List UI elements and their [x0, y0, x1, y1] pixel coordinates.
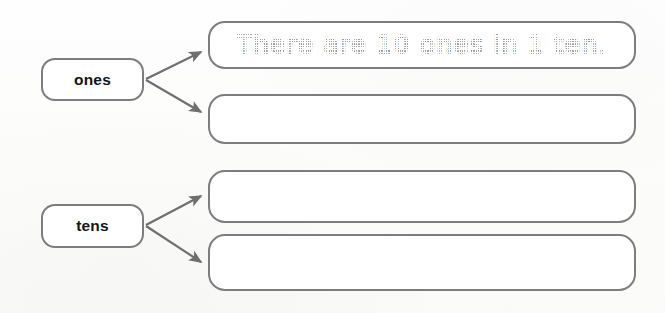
answer-box-tens-2[interactable] [208, 234, 636, 291]
label-pill-ones-text: ones [74, 72, 111, 88]
arrow-ones-to-answer-2 [146, 80, 201, 112]
arrow-tens-to-answer-3 [146, 196, 201, 225]
answer-box-tens-2-text [210, 236, 634, 289]
label-pill-tens[interactable]: tens [41, 204, 144, 248]
label-pill-tens-text: tens [76, 218, 109, 234]
answer-box-ones-1[interactable]: There are 10 ones in 1 ten. [208, 21, 636, 69]
arrow-ones-to-answer-1 [146, 52, 201, 79]
answer-box-ones-2-text [210, 96, 634, 142]
answer-box-ones-1-text: There are 10 ones in 1 ten. [236, 32, 607, 57]
arrow-tens-to-answer-4 [146, 226, 201, 262]
answer-box-tens-1-text [210, 172, 634, 221]
worksheet-canvas: ones tens There are 10 ones in 1 ten. [0, 0, 665, 313]
answer-box-tens-1[interactable] [208, 170, 636, 223]
label-pill-ones[interactable]: ones [41, 58, 144, 101]
answer-box-ones-2[interactable] [208, 94, 636, 144]
